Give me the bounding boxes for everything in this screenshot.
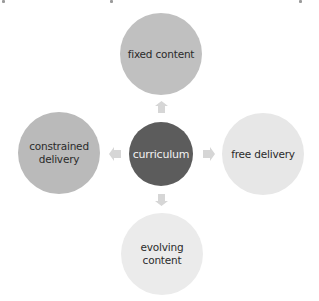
arrow-down-icon [155,194,168,206]
node-label: free delivery [231,148,295,161]
text-fragment-mark [299,0,302,3]
node-constrained-delivery: constrained delivery [18,112,100,194]
cropped-text-fragment [0,0,319,4]
arrow-up-icon [155,101,168,113]
arrow-left-icon [109,147,121,161]
node-label: evolving content [127,241,197,267]
arrow-right-icon [203,147,215,161]
center-label: curriculum [133,148,190,161]
text-fragment-mark [110,0,113,3]
node-evolving-content: evolving content [121,213,203,295]
node-label: fixed content [128,48,195,61]
node-free-delivery: free delivery [222,113,304,195]
node-curriculum-center: curriculum [129,122,193,186]
node-label: constrained delivery [28,140,90,166]
text-fragment-mark [2,0,5,3]
node-fixed-content: fixed content [120,13,202,95]
